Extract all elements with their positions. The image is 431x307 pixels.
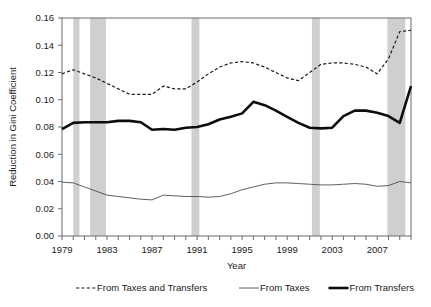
x-axis-title: Year [227, 260, 246, 271]
series-line-1 [62, 182, 411, 200]
y-tick-label: 0.14 [36, 40, 55, 51]
recession-bands [73, 18, 405, 236]
y-tick-label: 0.16 [36, 12, 55, 23]
y-tick-label: 0.04 [36, 176, 55, 187]
legend-label-2: From Transfers [350, 282, 415, 293]
x-axis: 19791983198719911995199920032007 [51, 236, 411, 255]
x-tick-label: 1999 [277, 244, 298, 255]
y-axis: 0.000.020.040.060.080.100.120.140.16 [36, 12, 63, 241]
x-tick-label: 2003 [322, 244, 343, 255]
gini-reduction-line-chart: 0.000.020.040.060.080.100.120.140.161979… [0, 0, 431, 307]
recession-band [90, 18, 106, 236]
legend-label-0: From Taxes and Transfers [97, 282, 207, 293]
series-line-2 [62, 86, 411, 130]
legend: From Taxes and TransfersFrom TaxesFrom T… [76, 282, 414, 293]
y-tick-label: 0.00 [36, 230, 55, 241]
series-group [62, 30, 411, 200]
y-tick-label: 0.10 [36, 94, 55, 105]
legend-label-1: From Taxes [260, 282, 310, 293]
chart-figure: 0.000.020.040.060.080.100.120.140.161979… [0, 0, 431, 307]
series-line-0 [62, 30, 411, 94]
x-tick-label: 1987 [141, 244, 162, 255]
y-axis-title: Reduction in Gini Coefficient [7, 67, 18, 187]
x-tick-label: 1979 [51, 244, 72, 255]
x-tick-label: 2007 [367, 244, 388, 255]
x-tick-label: 1995 [232, 244, 253, 255]
y-tick-label: 0.06 [36, 149, 55, 160]
y-tick-label: 0.12 [36, 67, 55, 78]
y-tick-label: 0.02 [36, 203, 55, 214]
plot-frame [62, 18, 411, 236]
x-tick-label: 1991 [187, 244, 208, 255]
recession-band [387, 18, 405, 236]
x-tick-label: 1983 [96, 244, 117, 255]
recession-band [73, 18, 79, 236]
y-tick-label: 0.08 [36, 121, 55, 132]
